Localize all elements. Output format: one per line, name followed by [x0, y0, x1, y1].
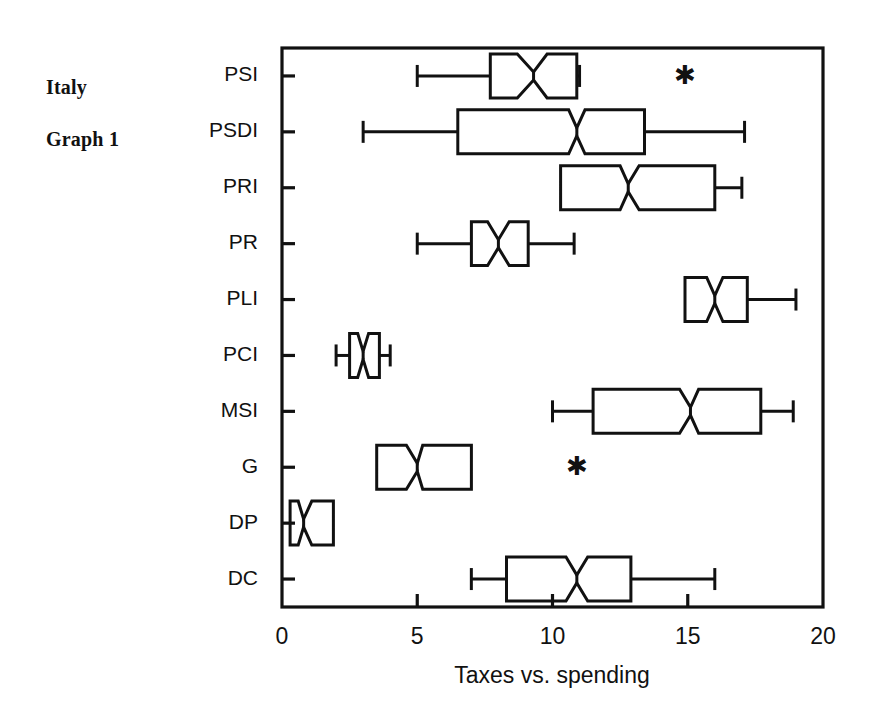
box-plot-series: ✱✱ — [290, 54, 796, 601]
notched-box-body — [561, 166, 715, 210]
notched-box-body — [507, 557, 631, 601]
notched-box-body — [377, 445, 472, 489]
y-tick-label-pli: PLI — [226, 286, 258, 309]
x-tick-label-0: 0 — [276, 623, 289, 649]
y-tick-label-psdi: PSDI — [209, 118, 258, 141]
notched-box-body — [593, 389, 761, 433]
y-tick-label-pci: PCI — [223, 342, 258, 365]
box-pci — [336, 333, 390, 377]
box-pli — [685, 278, 796, 322]
y-tick-label-pr: PR — [229, 230, 258, 253]
x-axis-tick-labels: 05101520 — [276, 623, 836, 649]
box-g: ✱ — [377, 445, 588, 489]
box-dc — [471, 557, 714, 601]
box-msi — [553, 389, 794, 433]
y-tick-label-pri: PRI — [223, 174, 258, 197]
outlier-marker: ✱ — [674, 60, 696, 90]
boxplot-figure: Italy Graph 1 PSIPSDIPRIPRPLIPCIMSIGDPDC… — [0, 0, 880, 705]
y-tick-label-msi: MSI — [221, 398, 258, 421]
figure-title-line-1: Italy — [46, 74, 119, 100]
box-psi: ✱ — [417, 54, 696, 98]
x-axis-title: Taxes vs. spending — [454, 662, 650, 688]
boxplot-canvas: PSIPSDIPRIPRPLIPCIMSIGDPDC 05101520 ✱✱ T… — [0, 0, 880, 705]
figure-title-line-2: Graph 1 — [46, 126, 119, 152]
y-tick-label-g: G — [242, 454, 258, 477]
y-tick-label-psi: PSI — [224, 62, 258, 85]
y-tick-label-dp: DP — [229, 510, 258, 533]
x-tick-label-10: 10 — [540, 623, 566, 649]
x-tick-label-20: 20 — [810, 623, 836, 649]
x-tick-label-15: 15 — [675, 623, 701, 649]
figure-corner-title: Italy Graph 1 — [46, 48, 119, 178]
box-pr — [417, 222, 574, 266]
box-pri — [561, 166, 742, 210]
box-psdi — [363, 110, 744, 154]
y-tick-label-dc: DC — [228, 566, 258, 589]
y-axis-ticks — [282, 76, 295, 579]
box-dp — [290, 501, 333, 545]
notched-box-body — [290, 501, 333, 545]
y-axis-labels: PSIPSDIPRIPRPLIPCIMSIGDPDC — [209, 62, 258, 588]
outlier-marker: ✱ — [566, 451, 588, 481]
x-tick-label-5: 5 — [411, 623, 424, 649]
notched-box-body — [458, 110, 645, 154]
